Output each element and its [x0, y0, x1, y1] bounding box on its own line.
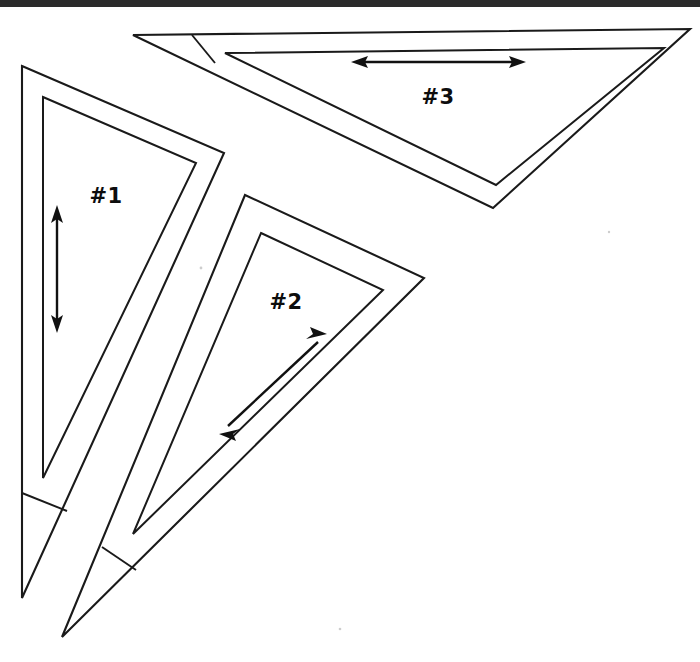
page-background [0, 0, 700, 662]
triangles-figure: #3 #1 #2 [0, 0, 700, 662]
triangle-1-label: #1 [89, 184, 122, 208]
diagram-canvas: #3 #1 #2 [0, 0, 700, 662]
triangle-2-label: #2 [269, 290, 302, 314]
scan-edge-bar [0, 0, 700, 7]
scan-speck [608, 231, 610, 233]
scan-speck [200, 267, 203, 270]
scan-speck [339, 628, 342, 631]
triangle-3-label: #3 [421, 85, 454, 109]
